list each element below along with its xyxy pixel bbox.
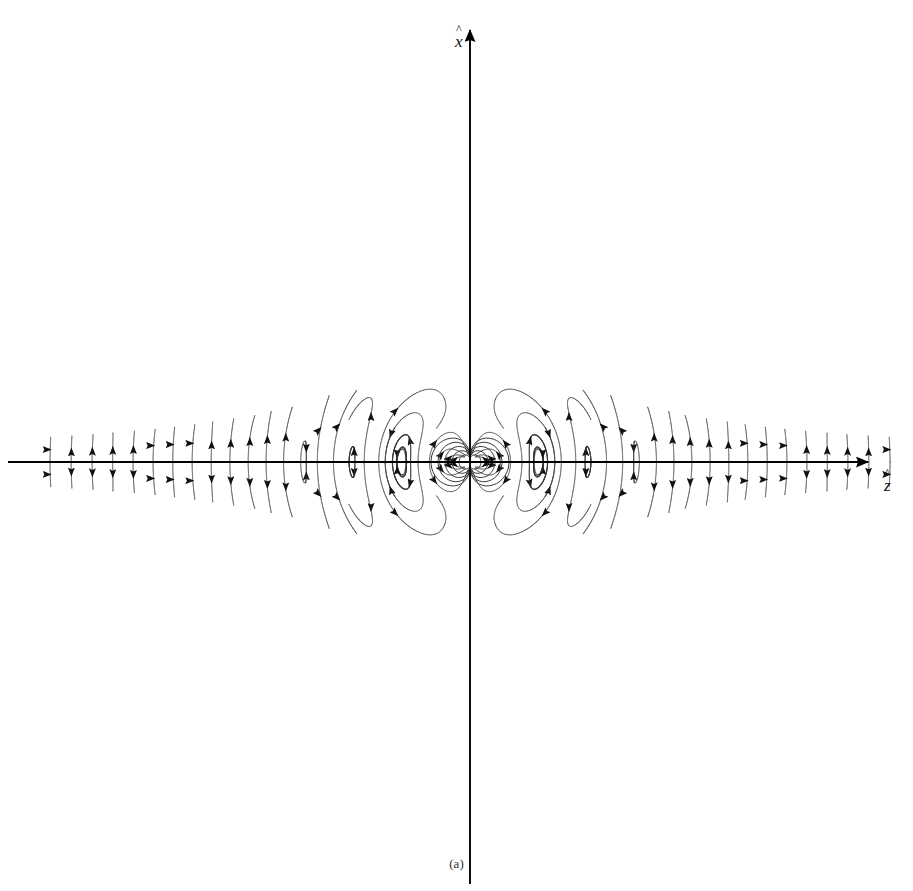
z-axis-label: ^ z <box>884 470 891 496</box>
field-line-left-13-a <box>284 462 293 517</box>
field-line-arrowhead <box>450 457 451 458</box>
field-line-arrowhead <box>483 465 485 466</box>
field-line-left-10-b <box>334 462 357 534</box>
field-line-right-14-a <box>669 411 674 462</box>
field-line-left-4-b <box>385 428 423 511</box>
axes-group <box>8 30 868 884</box>
field-line-arrowhead <box>450 467 451 468</box>
x-axis-label-text: x <box>455 32 463 51</box>
field-line-right-11-b <box>611 396 623 462</box>
field-line-arrowhead <box>497 453 498 454</box>
field-line-right-14-b <box>669 462 674 513</box>
field-line-arrowhead <box>489 457 490 458</box>
field-line-plot <box>0 0 913 891</box>
field-line-arrowhead <box>489 467 490 468</box>
field-line-left-7-b <box>379 389 446 462</box>
field-line-right-10-b <box>583 390 606 462</box>
field-line-left-7-a <box>379 462 446 535</box>
field-line-right-4-a <box>517 428 555 511</box>
field-line-arrowhead <box>443 471 444 472</box>
field-line-left-14-b <box>266 411 271 462</box>
field-line-arrowhead <box>455 458 457 459</box>
field-line-left-4-a <box>385 413 423 496</box>
dipole-radiation-figure: ^ x ^ z (a) <box>0 0 913 891</box>
field-line-left-13-b <box>284 407 293 462</box>
field-line-right-8-a <box>568 398 592 463</box>
x-axis-label: ^ x <box>455 26 463 52</box>
field-line-arrowhead <box>455 465 457 466</box>
field-line-right-13-b <box>648 462 657 517</box>
field-line-right-4-b <box>517 413 555 496</box>
field-line-left-8-b <box>349 398 373 463</box>
z-axis-label-text: z <box>884 476 891 495</box>
figure-caption: (a) <box>0 856 913 872</box>
field-line-left-15-b <box>248 462 255 508</box>
field-line-right-11-a <box>611 462 623 528</box>
field-line-right-15-b <box>685 416 692 462</box>
field-line-right-7-b <box>494 462 561 535</box>
field-line-right-13-a <box>648 407 657 462</box>
field-line-right-8-b <box>568 462 592 527</box>
field-line-left-8-a <box>349 462 373 527</box>
field-line-arrowhead <box>443 453 444 454</box>
field-line-right-15-a <box>685 462 692 508</box>
field-line-left-11-a <box>317 396 329 462</box>
field-line-left-14-a <box>266 462 271 513</box>
field-line-arrowhead <box>497 471 498 472</box>
field-line-right-7-a <box>494 389 561 462</box>
field-line-right-10-a <box>583 462 606 534</box>
field-line-arrowhead <box>483 458 485 459</box>
field-line-left-15-a <box>248 416 255 462</box>
field-line-left-11-b <box>317 462 329 528</box>
field-line-left-10-a <box>334 390 357 462</box>
